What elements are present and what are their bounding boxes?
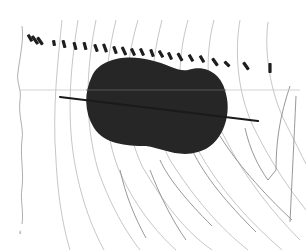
track-marker [199,55,206,64]
contour-line [267,22,306,164]
contour-line [55,20,70,250]
track-marker [268,63,271,73]
track-marker [188,54,195,63]
contour-map [0,0,306,250]
track-marker [72,42,77,51]
track-marker [102,43,108,53]
contour-line [70,20,104,250]
track-marker [121,46,128,56]
track-marker [149,49,155,58]
track-marker [242,61,250,70]
map-canvas: ᵻ [0,0,306,250]
track-marker [61,40,66,49]
track-marker [158,50,165,59]
track-marker [139,48,145,57]
contour-line [245,86,290,180]
contour-line [150,170,186,240]
track-marker [223,60,230,67]
contour-line [290,96,296,222]
track-marker [82,42,87,51]
coastline [18,26,23,224]
track-marker [176,52,183,61]
track-marker [52,40,56,46]
contour-line [160,160,212,226]
contour-line [192,150,256,232]
dark-plume-region [86,57,227,153]
contour-line [237,20,306,210]
track-marker [167,52,173,61]
track-marker [112,46,118,55]
track-marker [211,57,219,66]
track-marker [93,44,99,53]
corner-mark: ᵻ [19,228,21,235]
